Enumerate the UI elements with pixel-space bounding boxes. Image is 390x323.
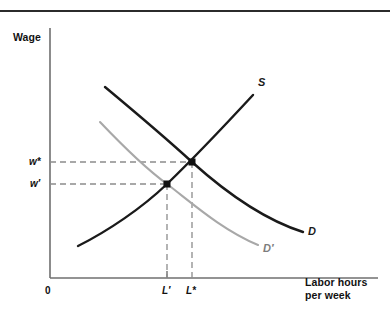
supply-curve: [78, 95, 253, 246]
shifted-equilibrium-point-marker: [164, 181, 171, 188]
figure-canvas: [0, 0, 390, 323]
y-axis-title: Wage: [13, 32, 41, 44]
x-axis-title-line1: Labor hours: [305, 277, 367, 289]
value-label-wage-shifted: w′: [30, 178, 40, 189]
value-label-labor-shifted: L′: [162, 285, 171, 296]
labor-market-demand-shift-figure: Wage Labor hours per week 0 w* w′ L′ L* …: [0, 0, 390, 323]
value-label-labor-equilibrium: L*: [186, 285, 196, 296]
equilibrium-point-marker: [189, 159, 196, 166]
origin-label: 0: [45, 285, 51, 296]
curve-label-supply: S: [258, 76, 265, 88]
curve-label-demand-shifted: D′: [263, 242, 274, 254]
value-label-wage-equilibrium: w*: [29, 156, 41, 167]
x-axis-title-line2: per week: [305, 290, 351, 302]
curve-label-demand: D: [308, 225, 316, 237]
